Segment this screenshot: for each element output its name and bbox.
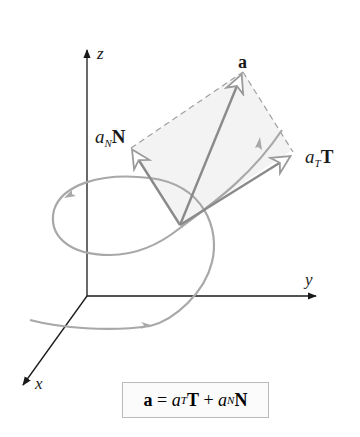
curve-arrow-bottom (141, 322, 151, 329)
formula-t-unit: T (187, 390, 199, 411)
vector-a-label: a (238, 53, 247, 71)
formula-t-coef: a (172, 390, 181, 411)
z-axis-label: z (97, 45, 104, 62)
formula-box: a = aTT + aNN (122, 382, 269, 418)
T-unit: T (321, 146, 334, 167)
vector-aT-T-label: aTT (305, 147, 333, 169)
vector-aN-N-label: aNN (95, 127, 126, 149)
aT-coef: a (305, 146, 315, 167)
diagram-canvas (0, 0, 360, 437)
formula-plus: + (199, 390, 218, 411)
formula-equals: = (153, 390, 172, 411)
x-axis (23, 296, 87, 385)
x-axis-label: x (35, 375, 43, 392)
aN-coef: a (95, 126, 105, 147)
formula-n-coef: a (218, 390, 227, 411)
N-unit: N (112, 126, 126, 147)
formula-lhs: a (144, 390, 153, 411)
formula-n-sub: N (227, 394, 234, 406)
formula-n-unit: N (234, 390, 247, 411)
aN-sub: N (105, 137, 112, 149)
y-axis-label: y (305, 271, 313, 288)
